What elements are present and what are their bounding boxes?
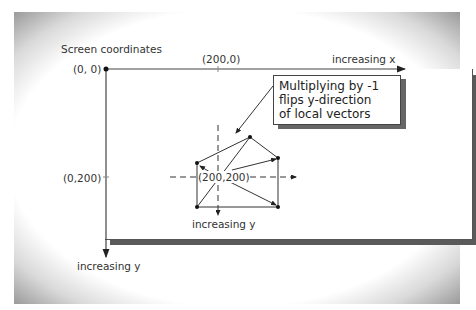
increasing-y-outer-label: increasing y (77, 260, 141, 272)
increasing-y-local-label: increasing y (192, 218, 256, 230)
increasing-x-label: increasing x (332, 53, 396, 65)
callout-line-2: flips y-direction (279, 93, 395, 107)
x200-label: (200,0) (202, 53, 240, 65)
callout-line-3: of local vectors (279, 107, 395, 121)
callout-pointer (236, 86, 273, 133)
callout-line-1: Multiplying by -1 (279, 79, 395, 93)
title-label: Screen coordinates (61, 43, 162, 55)
y200-label: (0,200) (63, 172, 101, 184)
origin-label: (0, 0) (73, 63, 101, 75)
callout-box: Multiplying by -1 flips y-direction of l… (273, 75, 401, 125)
center-label: (200,200) (198, 171, 250, 183)
origin-dot (104, 67, 109, 72)
